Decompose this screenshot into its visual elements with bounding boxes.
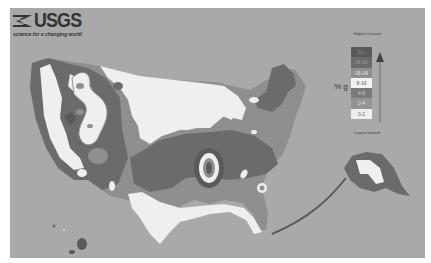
hazard-legend: Highest hazard 32+ 24-32 16-24 8-16 4-8 …: [336, 27, 396, 142]
map-frame: USGS science for a changing world Highes…: [10, 8, 425, 258]
legend-swatch-32-plus: 32+: [351, 47, 372, 57]
legend-title-high: Highest hazard: [342, 31, 392, 36]
legend-swatch-8-16: 8-16: [351, 78, 372, 88]
legend-swatch-16-24: 16-24: [351, 68, 372, 78]
legend-scale: 32+ 24-32 16-24 8-16 4-8 2-4 0-2: [351, 47, 372, 119]
legend-swatch-0-2: 0-2: [351, 109, 372, 119]
usgs-tagline: science for a changing world: [13, 31, 82, 37]
up-arrow-icon: [375, 52, 385, 122]
usgs-wave-icon: [12, 13, 34, 29]
legend-title-low: Lowest hazard: [342, 130, 392, 135]
legend-swatch-24-32: 24-32: [351, 57, 372, 67]
usgs-wordmark: USGS: [34, 8, 81, 32]
usgs-logo[interactable]: USGS science for a changing world: [12, 11, 102, 41]
legend-unit: % g: [334, 82, 348, 91]
legend-swatch-2-4: 2-4: [351, 98, 372, 108]
legend-swatch-4-8: 4-8: [351, 88, 372, 98]
